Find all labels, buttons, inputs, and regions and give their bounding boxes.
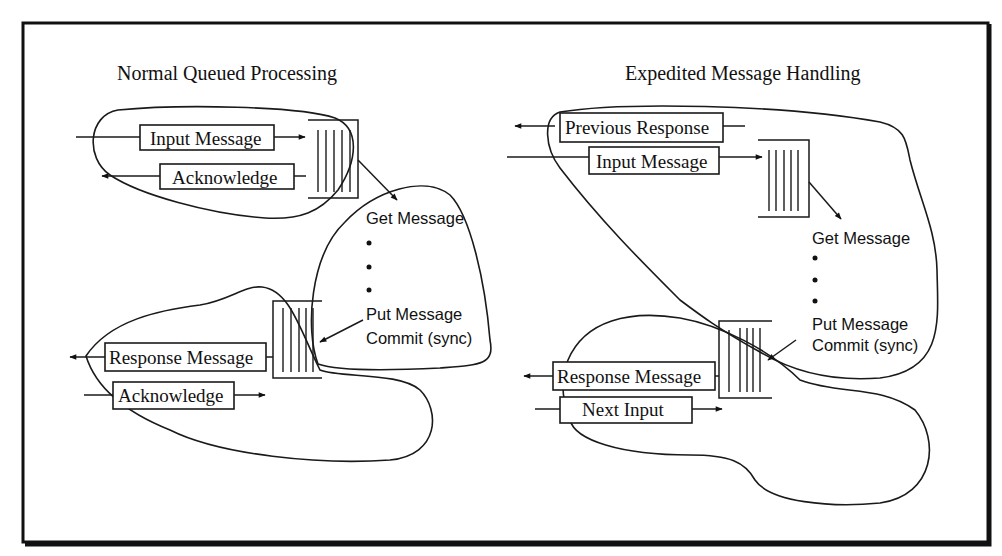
diagram-frame xyxy=(23,23,989,544)
right-ellipsis-dot xyxy=(813,256,818,261)
left-input-message-label: Input Message xyxy=(150,128,261,149)
right-put-message-label: Put Message xyxy=(812,315,908,333)
right-input-message-label: Input Message xyxy=(596,151,707,172)
right-ellipsis-dot xyxy=(813,299,818,304)
right-response-message-label: Response Message xyxy=(557,366,701,387)
left-get-message-label: Get Message xyxy=(366,209,464,227)
right-panel-title: Expedited Message Handling xyxy=(625,62,861,85)
left-ellipsis-dot xyxy=(367,288,372,293)
right-get-message-label: Get Message xyxy=(812,229,910,247)
left-ack-top-label: Acknowledge xyxy=(172,167,278,188)
left-response-message-label: Response Message xyxy=(109,347,253,368)
right-ellipsis-dot xyxy=(813,278,818,283)
left-ellipsis-dot xyxy=(367,241,372,246)
left-ellipsis-dot xyxy=(367,265,372,270)
right-previous-response-label: Previous Response xyxy=(565,117,709,138)
right-commit-label: Commit (sync) xyxy=(812,336,918,354)
left-panel-title: Normal Queued Processing xyxy=(117,62,337,85)
left-commit-label: Commit (sync) xyxy=(366,329,472,347)
left-put-message-label: Put Message xyxy=(366,305,462,323)
left-ack-bottom-label: Acknowledge xyxy=(118,385,224,406)
diagram-canvas: Normal Queued Processing Input Message A… xyxy=(0,0,1002,556)
right-next-input-label: Next Input xyxy=(582,399,665,420)
